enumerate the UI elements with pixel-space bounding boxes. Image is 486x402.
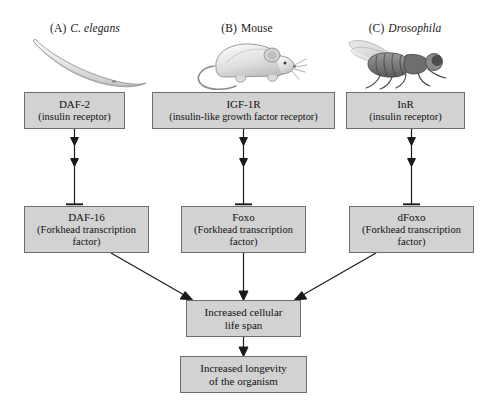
- gene-label-daf-16: DAF-16: [68, 211, 105, 224]
- gene-label-inr: InR: [397, 98, 414, 111]
- connector-igf1r-to-foxo: [235, 129, 252, 205]
- connector-daf2-to-daf16: [66, 129, 83, 205]
- connector-foxo-to-lifespan: [239, 253, 248, 301]
- gene-description-daf-2: (insulin receptor): [38, 111, 111, 123]
- node-box-cellular-life-span[interactable]: Increased cellular life span: [186, 300, 301, 337]
- outcome-longevity-line1: Increased longevity: [200, 362, 286, 375]
- connector-dfoxo-to-lifespan: [295, 253, 377, 300]
- gene-label-igf-1r: IGF-1R: [226, 98, 260, 111]
- node-box-daf-16[interactable]: DAF-16 (Forkhead transcription factor): [24, 206, 149, 253]
- node-box-igf-1r[interactable]: IGF-1R (insulin-like growth factor recep…: [152, 92, 335, 129]
- gene-label-daf-2: DAF-2: [59, 98, 90, 111]
- outcome-life-span-line1: Increased cellular: [205, 306, 283, 319]
- gene-label-foxo: Foxo: [232, 211, 255, 224]
- gene-description-igf-1r: (insulin-like growth factor receptor): [169, 111, 317, 123]
- gene-description-foxo-line1: (Forkhead transcription: [194, 224, 293, 236]
- gene-description-dfoxo-line1: (Forkhead transcription: [362, 224, 461, 236]
- connector-daf16-to-lifespan: [111, 253, 193, 300]
- node-box-organism-longevity[interactable]: Increased longevity of the organism: [180, 356, 307, 393]
- gene-description-daf-16-line1: (Forkhead transcription: [37, 224, 136, 236]
- node-box-daf-2[interactable]: DAF-2 (insulin receptor): [24, 92, 125, 129]
- node-box-inr[interactable]: InR (insulin receptor): [346, 92, 465, 129]
- gene-description-dfoxo-line2: factor): [398, 236, 426, 248]
- connector-inr-to-dfoxo: [403, 129, 420, 205]
- outcome-life-span-line2: life span: [225, 319, 263, 332]
- pathway-figure: (A)C. elegans (B)Mouse (C)Drosophila: [0, 0, 486, 402]
- gene-description-daf-16-line2: factor): [73, 236, 101, 248]
- node-box-foxo[interactable]: Foxo (Forkhead transcription factor): [181, 206, 306, 253]
- outcome-longevity-line2: of the organism: [209, 375, 278, 388]
- connector-lifespan-to-longevity: [239, 337, 248, 357]
- gene-description-foxo-line2: factor): [230, 236, 258, 248]
- connector-layer: [0, 0, 486, 402]
- gene-label-dfoxo: dFoxo: [397, 211, 425, 224]
- node-box-dfoxo[interactable]: dFoxo (Forkhead transcription factor): [349, 206, 474, 253]
- gene-description-inr: (insulin receptor): [369, 111, 442, 123]
